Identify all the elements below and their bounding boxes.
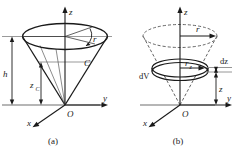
y-axis-arrowhead-b — [226, 102, 233, 107]
y-axis-label-a: y — [102, 93, 107, 103]
cone-slant-right-a — [65, 37, 108, 106]
x-axis-arrowhead-a — [33, 122, 40, 128]
height-label-a: h — [3, 69, 8, 79]
panel-b: z y x O r dV r z dz z (b) — [139, 7, 232, 147]
cone-centroid-figure: z y x O r C h z C (a) — [0, 0, 240, 152]
panel-a: z y x O r C h z C (a) — [2, 7, 112, 147]
radius-label-b: r — [196, 24, 200, 34]
z-axis-label-b: z — [183, 7, 188, 17]
origin-label-b: O — [182, 109, 189, 119]
ellipse-spoke-upper-a — [65, 27, 92, 37]
cone-interior-line-left-a — [40, 46, 65, 106]
z-dimension-arrow-top-b — [214, 72, 218, 77]
z-axis-label-a: z — [68, 7, 73, 17]
y-axis-arrowhead-a — [102, 102, 109, 107]
h-dimension-arrow-bottom-a — [10, 99, 14, 105]
z-dimension-arrow-bottom-b — [214, 100, 218, 105]
h-dimension-arrow-top-a — [10, 37, 14, 43]
x-axis-b — [152, 105, 180, 125]
x-axis-label-b: x — [142, 118, 147, 128]
height-z-label-b: z — [218, 84, 223, 94]
caption-a: (a) — [48, 136, 58, 146]
z-axis-arrowhead-b — [177, 7, 182, 14]
cone-slant-left-a — [23, 37, 66, 106]
element-volume-label-b: dV — [139, 71, 150, 81]
caption-b: (b) — [173, 136, 184, 146]
origin-label-a: O — [67, 109, 74, 119]
centroid-height-label-a: z C — [29, 80, 41, 92]
centroid-height-label-sub-a: C — [36, 86, 41, 92]
centroid-height-label-base-a: z — [29, 80, 34, 90]
thickness-label-b: dz — [220, 56, 228, 66]
x-axis-arrowhead-b — [149, 122, 156, 128]
radius-arrowhead-b — [210, 33, 217, 38]
centroid-label-a: C — [84, 58, 91, 68]
x-axis-a — [36, 105, 65, 125]
figure-container: z y x O r C h z C (a) — [0, 0, 240, 152]
disk-radius-label-base-b: r — [185, 58, 189, 68]
zc-dimension-arrow-bottom-a — [39, 100, 43, 105]
z-axis-arrowhead-a — [62, 7, 67, 14]
x-axis-label-a: x — [26, 118, 31, 128]
y-axis-label-b: y — [226, 93, 231, 103]
radius-label-a: r — [93, 34, 97, 44]
